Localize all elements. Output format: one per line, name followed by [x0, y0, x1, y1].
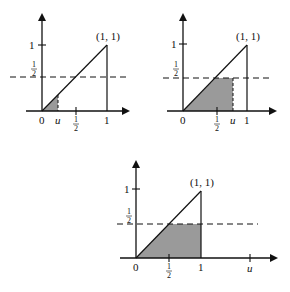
x-one-label: 1 — [104, 114, 110, 126]
x-half-num: 1 — [215, 115, 219, 124]
y-half-num: 1 — [32, 60, 36, 69]
panel-1: (1, 1) 1 1 2 0 u 1 2 1 — [10, 15, 128, 133]
x-one-label: 1 — [198, 261, 204, 273]
u-label: u — [247, 262, 253, 274]
y-half-num: 1 — [127, 207, 131, 216]
x-half-den: 2 — [167, 271, 171, 280]
y-one-label: 1 — [171, 38, 177, 50]
x-half-den: 2 — [215, 124, 219, 133]
x-half-num: 1 — [167, 262, 171, 271]
y-half-den: 2 — [174, 69, 178, 78]
origin-label: 0 — [39, 114, 45, 126]
origin-label: 0 — [180, 114, 186, 126]
y-half-den: 2 — [32, 69, 36, 78]
origin-label: 0 — [133, 261, 139, 273]
diagonal-line — [42, 45, 107, 111]
panel-2: (1, 1) 1 1 2 0 1 2 u 1 — [163, 15, 275, 133]
panel-3: (1, 1) 1 1 2 0 1 2 1 u — [117, 162, 276, 280]
shaded-region — [136, 224, 201, 258]
diagram-canvas: (1, 1) 1 1 2 0 u 1 2 1 (1, 1) 1 1 2 0 1 … — [0, 0, 290, 292]
shaded-region — [183, 78, 233, 111]
y-one-label: 1 — [29, 39, 35, 51]
u-label: u — [230, 114, 236, 126]
point-label: (1, 1) — [236, 30, 260, 43]
point-label: (1, 1) — [190, 176, 214, 189]
x-half-num: 1 — [74, 115, 78, 124]
u-label: u — [55, 114, 61, 126]
y-half-den: 2 — [127, 216, 131, 225]
y-one-label: 1 — [124, 183, 130, 195]
point-label: (1, 1) — [96, 30, 120, 43]
x-one-label: 1 — [244, 114, 250, 126]
x-half-den: 2 — [74, 124, 78, 133]
y-half-num: 1 — [174, 60, 178, 69]
